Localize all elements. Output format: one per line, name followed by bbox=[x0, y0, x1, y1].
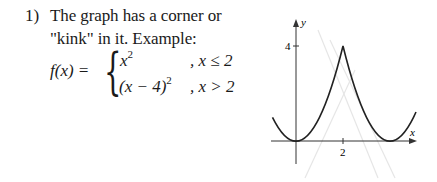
faint-background-lines bbox=[305, 30, 395, 178]
y-tick-label: 4 bbox=[285, 40, 291, 52]
x-axis-label: x bbox=[409, 126, 415, 138]
x-axis-arrow-icon bbox=[409, 138, 417, 144]
x-tick-label: 2 bbox=[340, 146, 346, 158]
function-graph: y x 4 2 bbox=[0, 0, 437, 182]
y-axis-arrow-icon bbox=[293, 19, 299, 27]
y-axis-label: y bbox=[300, 16, 306, 28]
